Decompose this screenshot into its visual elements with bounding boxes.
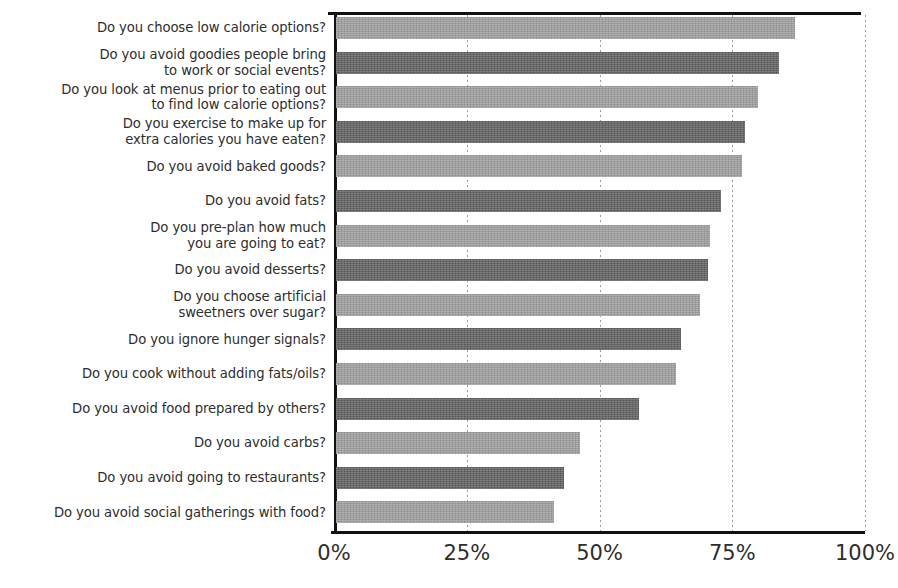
category-label: Do you avoid food prepared by others? (0, 401, 326, 417)
category-label: Do you avoid baked goods? (0, 159, 326, 175)
category-label: Do you avoid going to restaurants? (0, 470, 326, 486)
top-axis-rule (328, 12, 861, 15)
category-label: Do you avoid carbs? (0, 435, 326, 451)
bar (336, 225, 710, 247)
plot-area (334, 12, 865, 533)
category-label: Do you avoid fats? (0, 193, 326, 209)
bar (336, 259, 708, 281)
bar (336, 398, 639, 420)
bar (336, 363, 676, 385)
category-label: Do you avoid desserts? (0, 262, 326, 278)
category-label: Do you pre-plan how much you are going t… (0, 220, 326, 251)
bar (336, 190, 721, 212)
x-tick-label: 75% (687, 540, 777, 566)
x-axis-line (331, 531, 865, 534)
x-tick-label: 25% (422, 540, 512, 566)
x-axis-tick-labels: 0%25%50%75%100% (334, 540, 865, 574)
category-label: Do you choose low calorie options? (0, 20, 326, 36)
bar (336, 52, 779, 74)
category-label: Do you exercise to make up for extra cal… (0, 116, 326, 147)
bar (336, 294, 700, 316)
bar (336, 86, 758, 108)
category-label: Do you cook without adding fats/oils? (0, 366, 326, 382)
x-tick-label: 0% (289, 540, 379, 566)
category-label: Do you ignore hunger signals? (0, 332, 326, 348)
category-label: Do you avoid goodies people bring to wor… (0, 47, 326, 78)
x-tick-label: 50% (555, 540, 645, 566)
gridline-100pct (865, 15, 866, 531)
bar (336, 121, 745, 143)
bar (336, 328, 681, 350)
x-tick-label: 100% (820, 540, 898, 566)
bar (336, 432, 580, 454)
category-label-column: Do you choose low calorie options?Do you… (0, 10, 326, 534)
category-label: Do you look at menus prior to eating out… (0, 82, 326, 113)
bar (336, 17, 795, 39)
bar (336, 155, 742, 177)
bar (336, 501, 554, 523)
category-label: Do you avoid social gatherings with food… (0, 505, 326, 521)
bar-chart: Do you choose low calorie options?Do you… (0, 0, 898, 588)
category-label: Do you choose artificial sweetners over … (0, 289, 326, 320)
bar (336, 467, 564, 489)
